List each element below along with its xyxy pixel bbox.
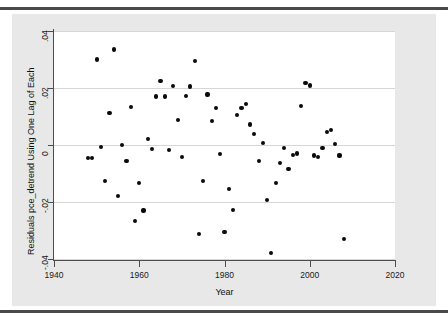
scatter-point — [95, 57, 99, 61]
scatter-point — [210, 119, 214, 123]
scatter-point — [248, 122, 252, 126]
x-tick-label: 1960 — [119, 270, 159, 280]
scatter-point — [107, 111, 111, 115]
y-tick-label: 0 — [40, 151, 50, 156]
scatter-point — [146, 137, 150, 141]
document-rule-bottom — [0, 310, 448, 313]
x-tick-label: 1940 — [34, 270, 74, 280]
plot-region — [54, 31, 395, 259]
scatter-point — [103, 179, 107, 183]
x-tick-mark — [395, 261, 396, 267]
scatter-point — [150, 147, 154, 151]
scatter-point — [274, 181, 278, 185]
scatter-point — [308, 83, 312, 87]
scatter-point — [329, 128, 333, 132]
x-tick-mark — [225, 261, 226, 267]
gridline-y — [54, 88, 395, 89]
scatter-point — [244, 102, 248, 106]
scatter-point — [112, 47, 116, 51]
scatter-point — [158, 79, 162, 83]
scatter-point — [239, 106, 243, 110]
scatter-point — [176, 118, 180, 122]
scatter-point — [141, 208, 145, 212]
gridline-y — [54, 202, 395, 203]
scatter-point — [303, 81, 307, 85]
y-tick-label: -.02 — [40, 198, 50, 213]
x-tick-label: 1980 — [205, 270, 245, 280]
scatter-point — [197, 232, 201, 236]
figure-screenshot: -.04-.020.02.04 19401960198020002020 Res… — [0, 0, 448, 322]
scatter-point — [124, 159, 128, 163]
document-rule-top — [0, 7, 448, 10]
x-tick-mark — [310, 261, 311, 267]
gridline-y — [54, 145, 395, 146]
x-tick-mark — [139, 261, 140, 267]
scatter-point — [261, 141, 265, 145]
scatter-point — [180, 155, 184, 159]
scatter-point — [295, 151, 299, 155]
scatter-point — [286, 167, 290, 171]
y-axis-title: Residuals pce_detrend Using One Lag of E… — [26, 67, 36, 255]
x-tick-label: 2020 — [375, 270, 415, 280]
gridline-y — [54, 31, 395, 32]
scatter-point — [129, 105, 133, 109]
scatter-point — [205, 92, 209, 96]
x-tick-mark — [54, 261, 55, 267]
y-tick-label: .04 — [40, 30, 50, 42]
scatter-point — [265, 198, 269, 202]
scatter-point — [214, 106, 218, 110]
scatter-point — [193, 59, 197, 63]
y-tick-label: .02 — [40, 87, 50, 99]
y-tick-mark — [48, 145, 54, 146]
x-tick-label: 2000 — [290, 270, 330, 280]
scatter-point — [222, 230, 226, 234]
scatter-point — [337, 153, 341, 157]
scatter-point — [116, 194, 120, 198]
x-axis-title: Year — [54, 287, 395, 297]
y-tick-label: -.04 — [40, 255, 50, 270]
scatter-point — [342, 237, 346, 241]
scatter-point — [163, 94, 167, 98]
scatter-point — [257, 159, 261, 163]
scatter-point — [320, 146, 324, 150]
scatter-point — [278, 161, 282, 165]
scatter-point — [184, 94, 188, 98]
